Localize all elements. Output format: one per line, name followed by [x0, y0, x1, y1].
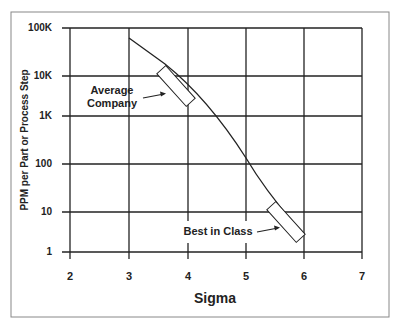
svg-text:3: 3 [126, 270, 132, 282]
best-in-class-box [267, 202, 305, 243]
svg-text:2: 2 [67, 270, 73, 282]
arrowhead-icon [160, 92, 166, 97]
svg-text:10: 10 [41, 206, 53, 217]
svg-text:5: 5 [243, 270, 249, 282]
svg-text:100K: 100K [28, 22, 53, 33]
best-in-class-label: Best in Class [183, 225, 252, 237]
x-tick-labels: 2 3 4 5 6 7 [67, 270, 365, 282]
arrowhead-icon [274, 226, 280, 231]
svg-text:1K: 1K [39, 110, 53, 121]
svg-text:7: 7 [359, 270, 365, 282]
chart: 100K 10K 1K 100 10 1 2 3 4 5 6 7 Sigma P… [0, 0, 400, 327]
svg-text:4: 4 [185, 270, 192, 282]
svg-text:10K: 10K [34, 70, 53, 81]
svg-text:Average: Average [90, 84, 133, 96]
y-axis-label: PPM per Part or Process Step [19, 69, 30, 210]
x-axis-label: Sigma [194, 290, 236, 306]
svg-text:1: 1 [46, 246, 52, 257]
y-tick-labels: 100K 10K 1K 100 10 1 [28, 22, 53, 257]
svg-text:100: 100 [35, 158, 52, 169]
average-company-label: Average Company [87, 84, 138, 109]
data-line [129, 38, 296, 226]
svg-text:6: 6 [301, 270, 307, 282]
svg-text:Company: Company [87, 97, 138, 109]
